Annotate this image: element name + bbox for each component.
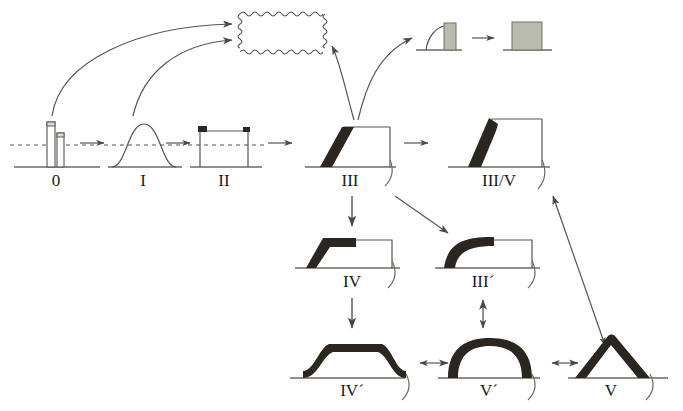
shape-evolution-diagram: 0 I II III III/V	[0, 0, 683, 411]
arrow-II-to-wavy	[133, 40, 232, 116]
arrow-III-to-III-pr	[395, 196, 448, 233]
wavy-box	[238, 12, 327, 54]
stage-label: IV´	[340, 381, 364, 400]
arrow-III-to-wavy	[332, 46, 354, 120]
stage-label: III´	[472, 272, 495, 291]
stage-III: III	[305, 127, 396, 190]
stage-III-V: III/V	[448, 118, 550, 190]
stage-V-pr: V´	[438, 338, 540, 400]
arrow-III-to-gray	[358, 38, 412, 120]
stage-V: V	[568, 335, 668, 401]
stage-III-pr: III´	[435, 237, 540, 291]
arrow-0-to-wavy	[52, 24, 232, 116]
stage-label: V	[605, 381, 618, 400]
stage-label: III/V	[482, 171, 517, 190]
stage-I: I	[104, 124, 182, 190]
arrow-V-to-III-V	[553, 196, 605, 345]
stage-label: III	[342, 171, 359, 190]
stage-0: 0	[10, 122, 100, 190]
gray-inset	[416, 22, 552, 50]
stage-label: IV	[343, 272, 362, 291]
stage-II: II	[188, 126, 264, 190]
stage-IV-pr: IV´	[290, 344, 409, 400]
stage-label: I	[140, 171, 146, 190]
diagram-canvas: 0 I II III III/V	[0, 0, 683, 411]
stage-label: V´	[480, 381, 498, 400]
stage-IV: IV	[295, 238, 400, 291]
stage-label: II	[218, 171, 230, 190]
stage-label: 0	[52, 171, 61, 190]
